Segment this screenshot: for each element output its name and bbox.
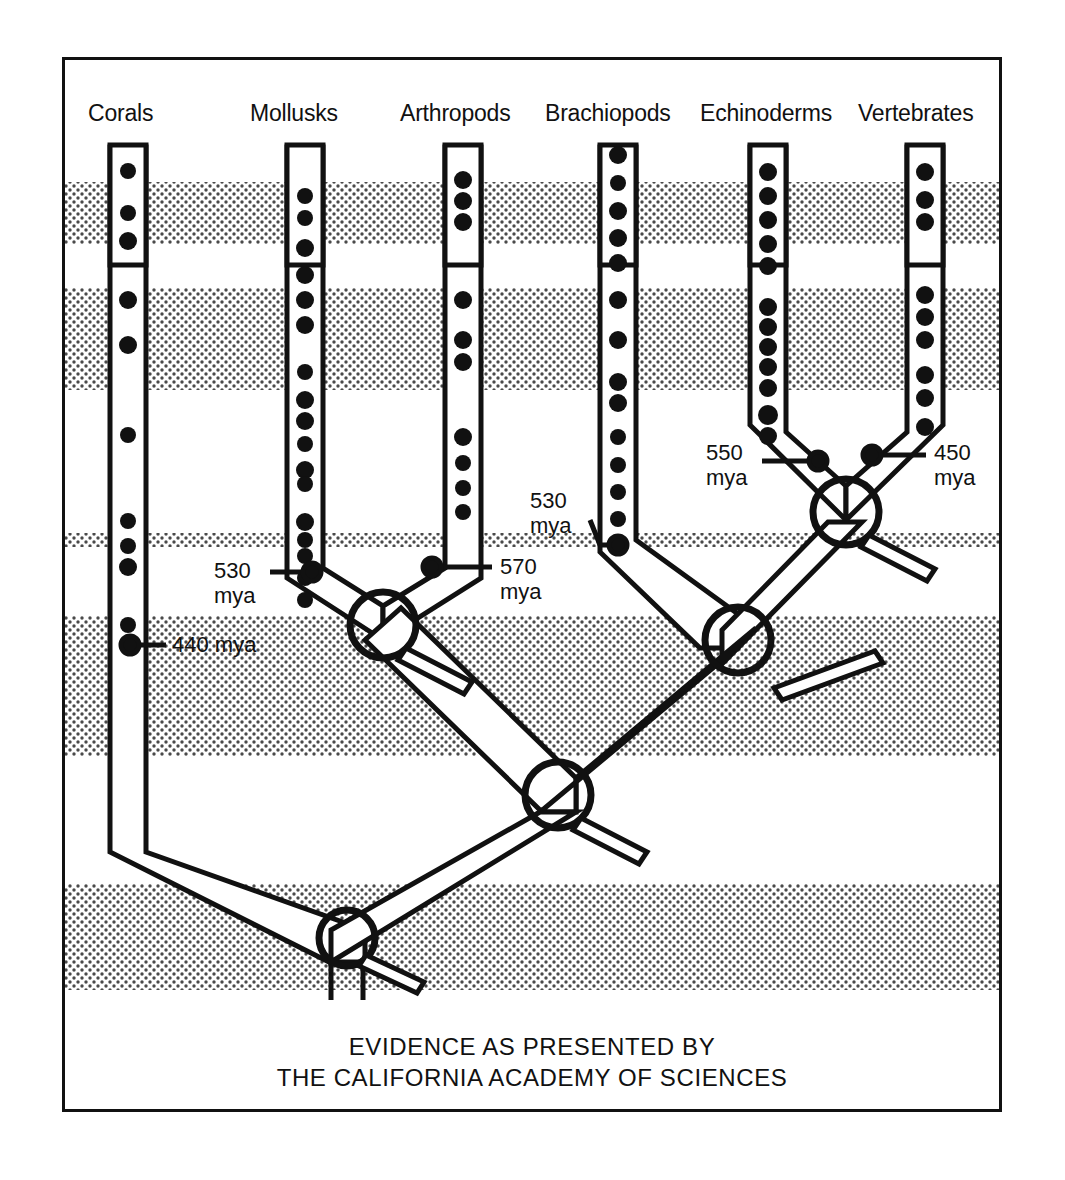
annotation-mollusks-530: 530 mya (214, 558, 256, 608)
annotation-brachiopods-530-line1: 530 (530, 488, 572, 513)
time-band (65, 182, 999, 244)
branch-corals (110, 147, 365, 962)
annotation-mollusks-530-line2: mya (214, 583, 256, 608)
column-header-corals: Corals (88, 100, 153, 127)
annotation-echinoderms-550-line1: 550 (706, 440, 748, 465)
annotation-brachiopods-530: 530 mya (530, 488, 572, 538)
column-header-vertebrates: Vertebrates (858, 100, 973, 127)
annotation-corals-440: 440 mya (172, 632, 256, 657)
annotation-arthropods-570-line1: 570 (500, 554, 542, 579)
figure-canvas: Corals Mollusks Arthropods Brachiopods E… (0, 0, 1065, 1180)
annotation-echinoderms-550: 550 mya (706, 440, 748, 490)
column-header-mollusks: Mollusks (250, 100, 338, 127)
annotation-mollusks-530-line1: 530 (214, 558, 256, 583)
annotation-arthropods-570-line2: mya (500, 579, 542, 604)
annotation-arthropods-570: 570 mya (500, 554, 542, 604)
column-header-brachiopods: Brachiopods (545, 100, 671, 127)
annotation-echinoderms-550-line2: mya (706, 465, 748, 490)
column-header-echinoderms: Echinoderms (700, 100, 832, 127)
caption-line-2: THE CALIFORNIA ACADEMY OF SCIENCES (62, 1062, 1002, 1093)
annotation-corals-440-line1: 440 mya (172, 632, 256, 657)
annotation-brachiopods-530-line2: mya (530, 513, 572, 538)
column-header-arthropods: Arthropods (400, 100, 511, 127)
caption-line-1: EVIDENCE AS PRESENTED BY (62, 1031, 1002, 1062)
annotation-vertebrates-450: 450 mya (934, 440, 976, 490)
annotation-vertebrates-450-line1: 450 (934, 440, 976, 465)
annotation-vertebrates-450-line2: mya (934, 465, 976, 490)
time-band (65, 288, 999, 390)
